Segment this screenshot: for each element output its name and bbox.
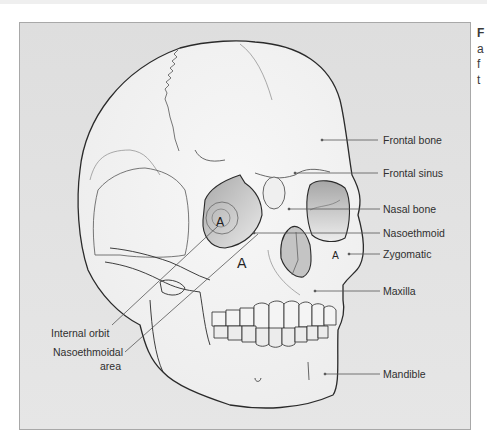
- label-nasoethmoid: Nasoethmoid: [383, 227, 445, 239]
- label-zygomatic: Zygomatic: [383, 248, 431, 260]
- label-frontal-bone: Frontal bone: [383, 134, 442, 146]
- orbit-left: [307, 181, 350, 242]
- figure-caption-fragment: F a f t: [477, 26, 484, 88]
- label-nasoethmoidal-area-line1: Nasoethmoidal: [53, 346, 121, 358]
- caption-line-3: f: [477, 57, 484, 73]
- label-maxilla: Maxilla: [383, 285, 416, 297]
- nasal-bone-oval: [263, 177, 285, 209]
- label-nasal-bone: Nasal bone: [383, 203, 436, 215]
- caption-line-2: a: [477, 42, 484, 58]
- label-frontal-sinus: Frontal sinus: [383, 167, 443, 179]
- cheek-marker-right: A: [332, 250, 339, 261]
- label-mandible: Mandible: [383, 368, 426, 380]
- cheek-marker-left: A: [237, 255, 247, 271]
- label-nasoethmoidal-area-line2: area: [53, 360, 121, 372]
- caption-line-4: t: [477, 73, 484, 89]
- label-internal-orbit: Internal orbit: [51, 327, 109, 339]
- skull-diagram: A A A: [0, 0, 487, 448]
- caption-line-1: F: [477, 26, 484, 42]
